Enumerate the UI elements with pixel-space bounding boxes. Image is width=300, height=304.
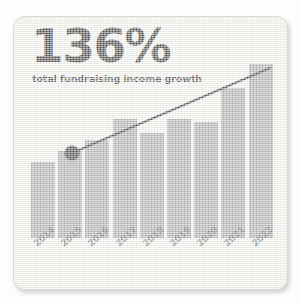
bar-2021 xyxy=(221,88,245,238)
bar-2019 xyxy=(167,119,191,238)
canvas: 136% total fundraising income growth 201… xyxy=(0,0,300,304)
headline-subtitle: total fundraising income growth xyxy=(32,73,202,84)
bar-2015 xyxy=(58,151,82,238)
headline-percentage: 136% xyxy=(31,22,170,69)
bar-2022 xyxy=(249,64,273,238)
stat-card: 136% total fundraising income growth 201… xyxy=(13,16,288,290)
bar-2017 xyxy=(113,119,137,238)
bar-2016 xyxy=(85,140,109,238)
bar-2020 xyxy=(194,122,218,238)
bar-2018 xyxy=(140,133,164,238)
